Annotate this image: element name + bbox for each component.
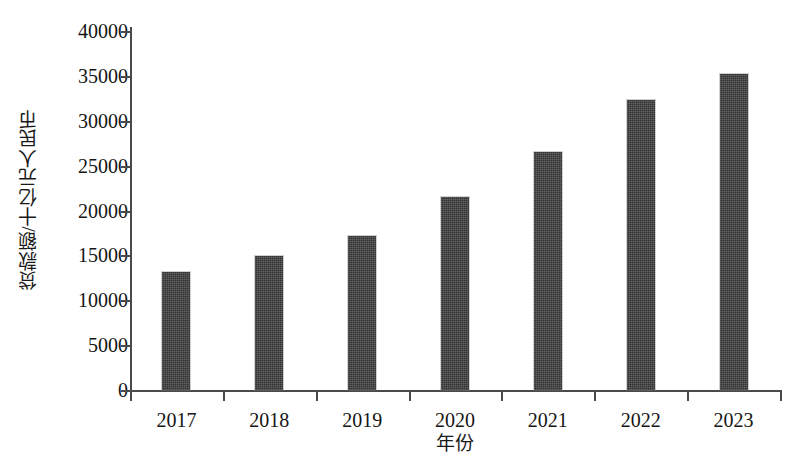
x-axis-tick-mark [780, 392, 782, 401]
y-axis-tick-mark [121, 211, 130, 213]
x-axis-title: 年份 [130, 428, 780, 455]
x-axis-tick-mark [130, 392, 132, 401]
y-axis-tick-label: 20000 [42, 201, 128, 221]
y-axis-tick-label: 25000 [42, 156, 128, 176]
y-axis-tick-mark [121, 76, 130, 78]
x-axis-tick-mark [501, 392, 503, 401]
y-axis-tick-mark [121, 31, 130, 33]
x-axis-tick-mark [594, 392, 596, 401]
y-axis-tick-mark [121, 345, 130, 347]
x-axis-tick-mark [409, 392, 411, 401]
bar [162, 272, 190, 390]
y-axis-tick-mark [121, 390, 130, 392]
y-axis-tick-label: 15000 [42, 245, 128, 265]
y-axis-tick-label: 30000 [42, 111, 128, 131]
y-axis-line [130, 27, 132, 390]
y-axis-tick-label: 40000 [42, 21, 128, 41]
y-axis-tick-labels: 0500010000150002000025000300003500040000 [20, 0, 128, 472]
x-axis-line [130, 390, 782, 392]
x-axis-tick-mark [316, 392, 318, 401]
y-axis-tick-mark [121, 166, 130, 168]
x-axis-title-label: 年份 [436, 433, 475, 454]
x-axis-tick-mark [687, 392, 689, 401]
bar [534, 152, 562, 390]
y-axis-tick-label: 10000 [42, 290, 128, 310]
y-axis-tick-mark [121, 255, 130, 257]
y-axis-tick-label: 5000 [42, 335, 128, 355]
bar [348, 236, 376, 390]
y-axis-tick-label: 0 [42, 380, 128, 400]
bar [441, 197, 469, 390]
bar [255, 256, 283, 390]
bar-chart-figure: 贷款额/十亿元人民币 05000100001500020000250003000… [0, 0, 800, 472]
bar [627, 100, 655, 390]
y-axis-tick-label: 35000 [42, 66, 128, 86]
y-axis-tick-mark [121, 300, 130, 302]
plot-area: 2017201820192020202120222023 [130, 31, 780, 390]
bar [720, 74, 748, 390]
x-axis-tick-mark [223, 392, 225, 401]
y-axis-tick-mark [121, 121, 130, 123]
